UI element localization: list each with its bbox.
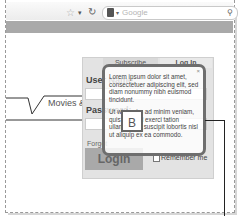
nav-bar bbox=[6, 21, 233, 33]
search-input[interactable]: Google bbox=[122, 7, 148, 19]
engine-chevron-icon[interactable]: ▾ bbox=[116, 8, 119, 18]
callout-paragraph-1: Lorem ipsum dolor sit amet, consectetuer… bbox=[109, 73, 201, 103]
star-icon[interactable]: ☆ bbox=[66, 8, 75, 18]
tab-movies[interactable]: Movies & bbox=[48, 98, 85, 108]
search-box[interactable]: ▾ Google ⚲ bbox=[102, 6, 238, 20]
reload-icon[interactable]: ↻ bbox=[88, 7, 96, 17]
google-logo-icon[interactable] bbox=[107, 8, 114, 17]
chevron-down-icon[interactable]: ▾ bbox=[78, 8, 82, 18]
browser-toolbar: ☆ ▾ ↻ ▾ Google ⚲ bbox=[6, 2, 233, 20]
connector-line-vertical bbox=[224, 120, 225, 216]
page-shadow-right bbox=[235, 8, 237, 214]
tooltip-callout: × Lorem ipsum dolor sit amet, consectetu… bbox=[102, 64, 206, 156]
magnifier-icon[interactable]: ⚲ bbox=[227, 7, 233, 19]
page-shadow-bottom bbox=[8, 213, 237, 215]
callout-text: Lorem ipsum dolor sit amet, consectetuer… bbox=[109, 73, 201, 143]
annotation-badge: B bbox=[121, 110, 143, 132]
connector-line bbox=[205, 120, 224, 121]
